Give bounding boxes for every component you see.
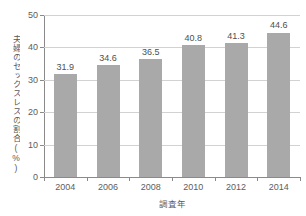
bar-value-label: 41.3 bbox=[227, 31, 245, 41]
gridline bbox=[44, 112, 300, 113]
y-tick-label: 40 bbox=[28, 42, 38, 52]
y-tick-mark bbox=[40, 112, 44, 113]
bar-value-label: 44.6 bbox=[270, 20, 288, 30]
y-axis-title: 夫婦のセックスレスの割合(%) bbox=[4, 26, 20, 182]
bar-value-label: 40.8 bbox=[185, 33, 203, 43]
y-tick-mark bbox=[40, 145, 44, 146]
x-category-label: 2010 bbox=[183, 182, 203, 192]
y-tick-label: 50 bbox=[28, 10, 38, 20]
x-tick-mark bbox=[129, 177, 130, 181]
gridline bbox=[44, 15, 300, 16]
bar-value-label: 36.5 bbox=[142, 47, 160, 57]
gridline bbox=[44, 47, 300, 48]
bar-value-label: 34.6 bbox=[99, 53, 117, 63]
gridline bbox=[44, 80, 300, 81]
y-tick-label: 20 bbox=[28, 107, 38, 117]
y-tick-label: 0 bbox=[33, 172, 38, 182]
bar bbox=[182, 45, 205, 177]
bar bbox=[54, 74, 77, 177]
x-tick-mark bbox=[44, 177, 45, 181]
y-tick-label: 30 bbox=[28, 75, 38, 85]
x-tick-mark bbox=[257, 177, 258, 181]
x-axis-title: 調査年 bbox=[44, 197, 300, 209]
bar bbox=[97, 65, 120, 177]
y-tick-mark bbox=[40, 47, 44, 48]
plot-area: 01020304050 bbox=[44, 15, 300, 177]
x-category-label: 2012 bbox=[226, 182, 246, 192]
x-tick-mark bbox=[87, 177, 88, 181]
bar bbox=[139, 59, 162, 177]
x-category-label: 2008 bbox=[141, 182, 161, 192]
y-tick-mark bbox=[40, 15, 44, 16]
x-category-label: 2004 bbox=[55, 182, 75, 192]
bar-chart: 夫婦のセックスレスの割合(%) 01020304050 31.934.636.5… bbox=[0, 0, 306, 216]
gridline bbox=[44, 145, 300, 146]
y-tick-mark bbox=[40, 80, 44, 81]
x-tick-mark bbox=[300, 177, 301, 181]
bar bbox=[225, 43, 248, 177]
y-tick-label: 10 bbox=[28, 140, 38, 150]
x-category-label: 2006 bbox=[98, 182, 118, 192]
bar bbox=[267, 33, 290, 178]
x-tick-mark bbox=[172, 177, 173, 181]
bar-value-label: 31.9 bbox=[57, 62, 75, 72]
x-tick-mark bbox=[215, 177, 216, 181]
x-category-label: 2014 bbox=[269, 182, 289, 192]
